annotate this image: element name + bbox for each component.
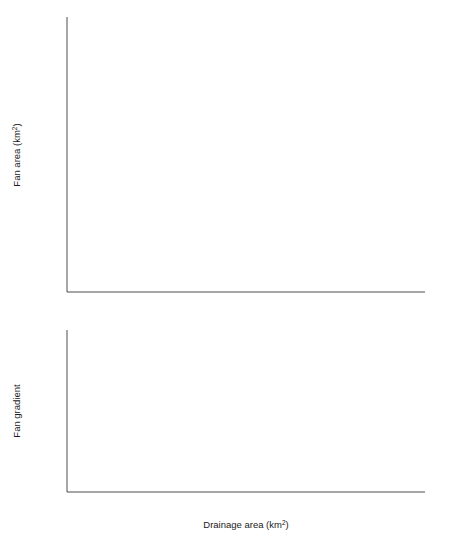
top-panel-axes	[67, 17, 425, 292]
top-panel: Fan area (km2)	[11, 17, 425, 292]
bottom-y-axis-title: Fan gradient	[11, 384, 22, 438]
x-axis-title: Drainage area (km2)	[203, 519, 288, 530]
spanish-fans-figure: Fan area (km2) Fan gradient Drainage are…	[0, 0, 451, 541]
bottom-panel: Fan gradient Drainage area (km2)	[11, 330, 425, 530]
top-y-axis-title: Fan area (km2)	[11, 123, 22, 186]
bottom-panel-axes	[67, 330, 425, 492]
